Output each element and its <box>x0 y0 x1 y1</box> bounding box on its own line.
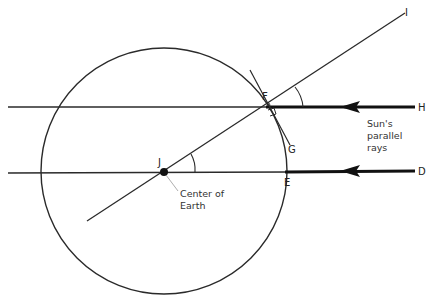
label-g: G <box>288 144 296 155</box>
label-f: F <box>262 91 268 102</box>
center-caption-1: Center of <box>180 188 225 199</box>
ray-line-lower <box>8 172 287 173</box>
label-i: I <box>405 7 408 18</box>
label-e: E <box>284 177 290 188</box>
angle-arc-j <box>191 154 195 172</box>
sun-caption-1: Sun's <box>367 118 393 129</box>
label-j: J <box>157 157 161 168</box>
center-point-j <box>160 168 168 176</box>
angle-arc-f <box>295 87 303 107</box>
label-h: H <box>418 102 426 113</box>
center-leader-line <box>166 175 178 191</box>
earth-diagram: F G H D E I J Center of Earth Sun's para… <box>0 0 441 303</box>
center-caption-2: Earth <box>180 200 205 211</box>
sun-caption-3: rays <box>367 142 387 153</box>
radial-line-ji <box>87 13 405 221</box>
sun-caption-2: parallel <box>367 130 402 141</box>
label-d: D <box>418 166 426 177</box>
